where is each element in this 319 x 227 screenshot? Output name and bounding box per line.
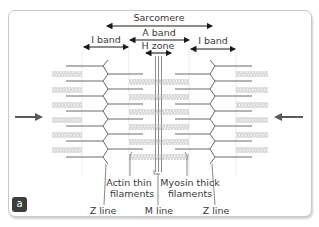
actin-label-1: Actin thin (106, 177, 151, 188)
i-band-right-label: I band (198, 35, 228, 46)
i-band-left-label: I band (91, 34, 121, 45)
myosin-label-1: Myosin thick (160, 177, 220, 188)
z-line-right-label: Z line (203, 205, 230, 216)
panel-label-badge: a (12, 197, 27, 212)
myosin-thick-filaments (52, 71, 268, 160)
actin-label-2: filaments (110, 188, 154, 199)
myosin-label-2: filaments (168, 188, 212, 199)
m-line-label: M line (145, 205, 174, 216)
z-line-left (103, 60, 108, 164)
sarcomere-label: Sarcomere (133, 12, 184, 23)
sarcomere-diagram: Sarcomere A band H zone I band I band (0, 0, 319, 227)
z-line-right (210, 60, 215, 164)
a-band-label: A band (142, 27, 175, 38)
z-line-left-label: Z line (90, 205, 117, 216)
h-zone-label: H zone (142, 40, 175, 51)
